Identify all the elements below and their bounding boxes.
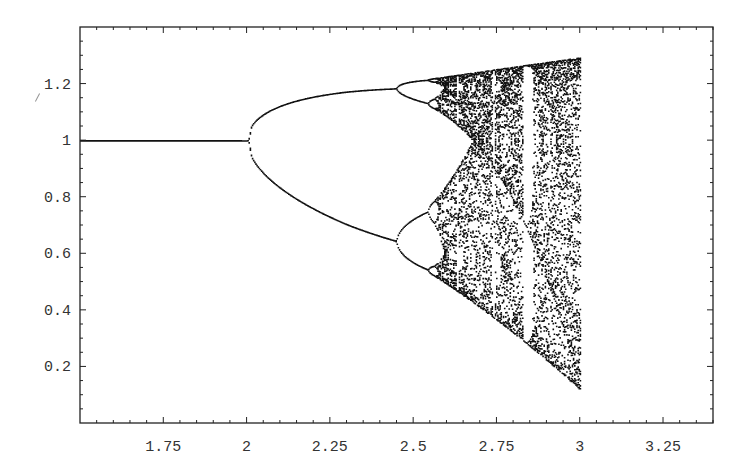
bifurcation-chart: 1.7522.252.52.7533.25 0.20.40.60.811.2 [0, 0, 744, 473]
x-tick-label: 3 [575, 439, 584, 456]
y-tick-label: 0.6 [44, 246, 71, 263]
x-tick-label: 1.75 [145, 439, 181, 456]
y-tick-label: 0.8 [44, 190, 71, 207]
plot-frame [80, 27, 713, 423]
bifurcation-points [80, 57, 581, 389]
x-tick-label: 3.25 [645, 439, 681, 456]
x-axis-tick-labels: 1.7522.252.52.7533.25 [145, 439, 681, 456]
y-tick-label: 0.4 [44, 303, 71, 320]
y-tick-label: 0.2 [44, 359, 71, 376]
x-tick-label: 2.25 [312, 439, 348, 456]
axis-ticks [80, 27, 713, 423]
x-tick-label: 2.5 [400, 439, 427, 456]
x-tick-label: 2.75 [478, 439, 514, 456]
x-tick-label: 2 [242, 439, 251, 456]
y-tick-label: 1.2 [44, 77, 71, 94]
y-tick-label: 1 [62, 133, 71, 150]
orbit-points [80, 57, 581, 389]
y-axis-tick-labels: 0.20.40.60.811.2 [44, 77, 71, 377]
